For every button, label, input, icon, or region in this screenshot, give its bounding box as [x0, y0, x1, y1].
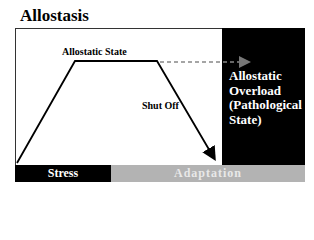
stress-phase-bar: Stress — [15, 165, 111, 182]
adaptation-phase-bar: Adaptation — [111, 165, 305, 182]
allostatic-state-label: Allostatic State — [62, 46, 127, 57]
shut-off-label: Shut Off — [142, 100, 179, 111]
